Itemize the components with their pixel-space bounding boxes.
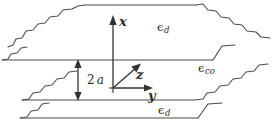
- epsilon-subscript: co: [205, 66, 215, 76]
- lower-cladding-permittivity-label: ϵd: [158, 105, 170, 117]
- x-axis-arrowhead: [109, 15, 116, 25]
- upper-interface-right-edge: [213, 45, 235, 60]
- epsilon-symbol: ϵ: [157, 20, 163, 34]
- lower-cladding-bottom-right-edge: [198, 103, 222, 118]
- z-axis-label: z: [136, 68, 143, 81]
- z-axis-line: [113, 68, 136, 88]
- diagram-canvas: [0, 0, 272, 125]
- lower-cladding-bottom-left-jagged-edge: [20, 103, 49, 118]
- epsilon-symbol: ϵ: [198, 61, 204, 75]
- epsilon-subscript: d: [164, 25, 169, 35]
- epsilon-symbol: ϵ: [158, 103, 164, 117]
- upper-cladding-top-right-jagged-edge: [196, 4, 270, 38]
- slab-waveguide-diagram: x y z 2a ϵd ϵco ϵd: [0, 0, 272, 125]
- core-permittivity-label: ϵco: [198, 63, 215, 75]
- thickness-value: 2: [87, 73, 95, 87]
- upper-interface-left-jagged-edge: [2, 47, 27, 60]
- epsilon-subscript: d: [165, 108, 170, 118]
- y-axis-label: y: [148, 89, 156, 102]
- x-axis-label: x: [119, 15, 127, 28]
- thickness-dimension-label: 2a: [87, 74, 104, 86]
- upper-cladding-top-left-jagged-edge: [8, 5, 85, 47]
- thickness-variable: a: [97, 73, 104, 87]
- upper-cladding-permittivity-label: ϵd: [157, 22, 169, 34]
- core-left-jagged-edge: [22, 71, 77, 100]
